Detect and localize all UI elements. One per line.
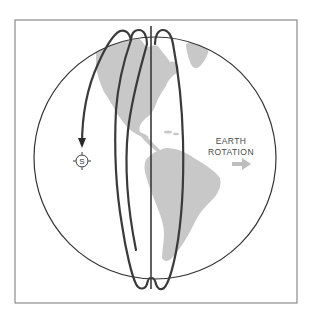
earth-rotation-label-line1: EARTH [216,136,247,146]
polar-orbit-diagram: S EARTH ROTATION [0,0,312,319]
earth-rotation-label-line2: ROTATION [208,147,254,157]
caribbean-island [173,133,179,135]
satellite-label: S [79,157,84,166]
caribbean-island [164,131,172,134]
